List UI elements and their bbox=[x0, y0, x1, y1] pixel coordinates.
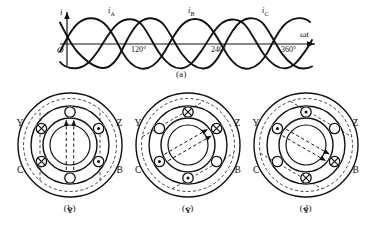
terminal-label-z: Z bbox=[353, 118, 359, 128]
stator-cross-section: AZBXCY(c) bbox=[126, 85, 250, 213]
flux-arrowhead bbox=[323, 149, 329, 154]
current-out-dot-icon bbox=[305, 111, 308, 114]
current-out-dot-icon bbox=[187, 177, 190, 180]
winding-slot-b bbox=[211, 156, 223, 168]
curve-label-ib: iB bbox=[188, 6, 194, 17]
rotor-bore-circle bbox=[43, 118, 97, 172]
winding-slot-x bbox=[300, 172, 312, 184]
y-axis-label: i bbox=[60, 8, 63, 17]
current-out-dot-icon bbox=[97, 160, 100, 163]
rotor-circle bbox=[50, 125, 90, 165]
flux-arrowhead bbox=[71, 120, 76, 126]
winding-slot-y bbox=[35, 123, 47, 135]
y-axis-arrowhead bbox=[64, 12, 70, 19]
terminal-label-b: B bbox=[117, 165, 123, 175]
waveform-plot bbox=[0, 0, 374, 80]
conductor-circle bbox=[65, 173, 75, 183]
tick-label-120: 120° bbox=[131, 46, 146, 54]
curve-phase-b bbox=[60, 18, 312, 68]
tick-label-360: 360° bbox=[281, 46, 296, 54]
terminal-label-y: Y bbox=[135, 118, 142, 128]
stator-cross-section: AZBXCY(d) bbox=[244, 85, 368, 213]
panel-caption-b: (b) bbox=[64, 203, 76, 213]
conductor-circle bbox=[154, 123, 164, 133]
winding-slot-a bbox=[300, 106, 312, 118]
winding-slot-z bbox=[211, 123, 223, 135]
terminal-label-z: Z bbox=[235, 118, 241, 128]
conductor-circle bbox=[272, 156, 282, 166]
flux-lines bbox=[64, 120, 77, 170]
conductor-circle bbox=[329, 123, 339, 133]
flux-line bbox=[282, 136, 325, 161]
winding-slot-a bbox=[182, 106, 194, 118]
cross-section-panel-c: AZBXCY(c) bbox=[126, 85, 250, 213]
winding-slot-c bbox=[35, 156, 47, 168]
winding-slot-z bbox=[329, 123, 341, 135]
panel-caption-a: (a) bbox=[176, 70, 187, 79]
terminal-label-z: Z bbox=[117, 118, 123, 128]
winding-slot-c bbox=[153, 156, 165, 168]
flux-arrowhead bbox=[205, 136, 211, 141]
terminal-label-c: C bbox=[17, 165, 23, 175]
winding-slot-x bbox=[64, 172, 76, 184]
curve-label-ia: iA bbox=[108, 6, 115, 17]
rotor-bore-circle bbox=[279, 118, 333, 172]
tick-label-240: 240° bbox=[211, 46, 226, 54]
terminal-label-b: B bbox=[235, 165, 241, 175]
cross-section-panel-d: AZBXCY(d) bbox=[244, 85, 368, 213]
winding-slot-b bbox=[329, 156, 341, 168]
terminal-label-y: Y bbox=[17, 118, 24, 128]
winding-slot-a bbox=[64, 106, 76, 118]
conductor-circle bbox=[211, 156, 221, 166]
current-out-dot-icon bbox=[276, 127, 279, 130]
x-axis-label: ωt bbox=[300, 30, 309, 39]
waveform-panel: i O ωt iA iB iC 120° 240° 360° (a) bbox=[0, 0, 374, 80]
curve-label-ic: iC bbox=[262, 6, 268, 17]
flux-line bbox=[164, 129, 207, 154]
field-boundary-lines bbox=[40, 109, 100, 180]
panel-caption-d: (d) bbox=[300, 203, 312, 213]
current-out-dot-icon bbox=[97, 127, 100, 130]
conductor-circle bbox=[65, 107, 75, 117]
winding-slot-c bbox=[271, 156, 283, 168]
panel-caption-c: (c) bbox=[182, 203, 194, 213]
cross-section-panel-b: AZBXCY(b) bbox=[8, 85, 132, 213]
stator-cross-section: AZBXCY(b) bbox=[8, 85, 132, 213]
terminal-label-c: C bbox=[135, 165, 141, 175]
winding-slot-x bbox=[182, 172, 194, 184]
terminal-label-c: C bbox=[253, 165, 259, 175]
winding-slot-y bbox=[271, 123, 283, 135]
rotor-bore-circle bbox=[161, 118, 215, 172]
terminal-label-y: Y bbox=[253, 118, 260, 128]
current-out-dot-icon bbox=[158, 160, 161, 163]
winding-slot-b bbox=[93, 156, 105, 168]
flux-arrowhead bbox=[64, 120, 69, 126]
winding-slot-y bbox=[153, 123, 165, 135]
winding-slot-z bbox=[93, 123, 105, 135]
terminal-label-b: B bbox=[353, 165, 359, 175]
origin-label: O bbox=[57, 46, 64, 55]
